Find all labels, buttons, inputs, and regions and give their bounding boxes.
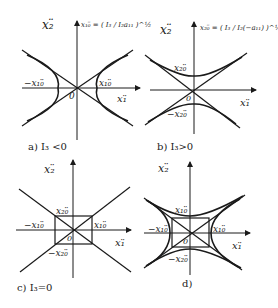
vertex-label-top: x₂₀̈ (56, 206, 69, 216)
x-axis-label: x₁̈ (240, 97, 250, 108)
y-axis-label: x₂̈ (160, 23, 172, 37)
origin-label: 0 (186, 94, 191, 103)
vertex-label-left: −x₁₀̈ (148, 224, 168, 234)
panel-c: x₂̈ x₁̈ 0 x₂₀̈ −x₂₀̈ x₁₀̈ −x₁₀̈ c) I₃=0 (16, 160, 131, 293)
caption: b) I₃>0 (157, 141, 193, 152)
panel-a: x₂̈ x₁̈ 0 x₁₀̈ −x₁₀̈ x₁₀̈ = ( I₃ / I₂a₁₁… (22, 18, 151, 152)
origin-label: 0 (67, 234, 72, 243)
origin-label: 0 (183, 237, 188, 246)
vertex-label-left: −x₁₀̈ (24, 220, 44, 230)
panel-d: x₂̈ x₁̈ 0 x₁₀̈ −x₂₀̈ x₁₀̈ −x₁₀̈ d) (144, 162, 250, 289)
vertex-label-right: x₁₀̈ (213, 224, 226, 234)
vertex-label-top: x₂₀̈ (174, 63, 187, 73)
x-axis-label: x₁̈ (115, 237, 125, 248)
y-axis-label: x₂̈ (42, 18, 54, 32)
caption: a) I₃ <0 (28, 141, 67, 152)
y-axis-label: x₂̈ (158, 162, 169, 175)
vertex-label-left: −x₁₀̈ (24, 78, 44, 88)
phase-plane-figure: x₂̈ x₁̈ 0 x₁₀̈ −x₁₀̈ x₁₀̈ = ( I₃ / I₂a₁₁… (0, 0, 278, 308)
vertex-label-right: x₁₀̈ (99, 78, 112, 88)
vertex-label-bottom: −x₂₀̈ (168, 254, 188, 264)
origin-label: 0 (69, 91, 75, 101)
formula: x₂₀̈ = ( I₃ / I₂(−a₁₁) )^½ (200, 24, 278, 32)
hyperbola-lower-branch (148, 104, 236, 124)
vertex-label-bottom: −x₂₀̈ (48, 248, 68, 258)
y-axis-label: x₂̈ (44, 163, 55, 176)
caption: c) I₃=0 (17, 282, 52, 293)
formula: x₁₀̈ = ( I₃ / I₂a₁₁ )^½ (81, 21, 151, 29)
x-axis-label: x₁̈ (117, 93, 127, 104)
panel-b: x₂̈ x₁̈ 0 x₂₀̈ −x₂₀̈ x₂₀̈ = ( I₃ / I₂(−a… (145, 22, 278, 152)
caption: d) (182, 278, 192, 289)
vertex-label-bottom: −x₂₀̈ (167, 109, 187, 119)
x-axis-label: x₁̈ (232, 240, 242, 251)
vertex-label-right: x₁₀̈ (94, 220, 107, 230)
vertex-label-top: x₁₀̈ (175, 205, 188, 215)
